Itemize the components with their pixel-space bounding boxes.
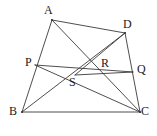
segment-PQ — [35, 65, 133, 72]
point-label-b: B — [9, 105, 17, 117]
geometry-figure: ADPRQSBC — [0, 0, 157, 136]
point-label-p: P — [25, 56, 32, 68]
geometry-canvas — [0, 0, 157, 136]
diagonal-AC — [52, 20, 140, 112]
point-label-q: Q — [137, 63, 146, 75]
vertex-dot-d — [124, 32, 126, 34]
point-label-s: S — [69, 76, 76, 88]
diagonal-BD — [22, 33, 125, 112]
point-label-c: C — [141, 105, 149, 117]
segment-layer — [22, 20, 140, 112]
point-label-a: A — [44, 4, 53, 16]
point-label-d: D — [123, 18, 132, 30]
vertex-dot-b — [21, 111, 23, 113]
segment-DS — [75, 33, 125, 75]
point-label-r: R — [101, 57, 109, 69]
vertex-dot-a — [51, 19, 53, 21]
